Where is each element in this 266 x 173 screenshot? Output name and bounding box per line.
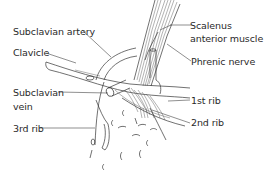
label-phrenic-nerve: Phrenic nerve <box>191 56 255 67</box>
label-second-rib: 2nd rib <box>191 117 224 128</box>
label-clavicle: Clavicle <box>13 47 49 58</box>
leader-subclavian-vein <box>58 92 108 93</box>
anatomy-diagram: Subclavian artery Clavicle Subclavian ve… <box>0 0 266 173</box>
leader-first-rib <box>168 100 190 101</box>
subclavian-artery-drawing <box>96 48 137 80</box>
leader-lines <box>40 25 191 128</box>
label-subclavian-artery: Subclavian artery <box>13 26 95 37</box>
scalenus-muscle-drawing <box>134 0 180 86</box>
label-scalenus-line1: Scalenus <box>190 20 232 31</box>
label-subclavian-vein-line2: vein <box>13 101 33 112</box>
leader-second-rib <box>152 110 190 123</box>
label-first-rib: 1st rib <box>191 95 221 106</box>
leader-clavicle <box>46 53 76 63</box>
label-subclavian-vein-line1: Subclavian <box>13 87 64 98</box>
leader-phrenic-nerve <box>167 44 191 61</box>
label-third-rib: 3rd rib <box>13 123 44 134</box>
label-scalenus-line2: anterior muscle <box>190 33 263 44</box>
texture-strokes <box>103 110 158 170</box>
